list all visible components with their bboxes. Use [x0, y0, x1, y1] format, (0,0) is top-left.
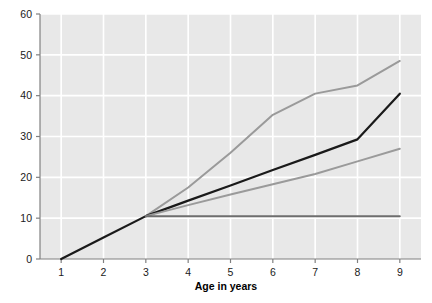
y-tick-label: 10 — [20, 212, 32, 224]
y-axis-tick-labels: 0102030405060 — [20, 8, 32, 265]
y-tick-label: 20 — [20, 171, 32, 183]
x-tick-label: 9 — [397, 266, 403, 278]
y-tick-label: 50 — [20, 49, 32, 61]
x-tick-label: 8 — [355, 266, 361, 278]
x-tick-label: 5 — [228, 266, 234, 278]
x-tick-label: 4 — [185, 266, 191, 278]
x-axis-tick-labels: 123456789 — [58, 266, 403, 278]
x-tick-label: 6 — [270, 266, 276, 278]
line-chart: 0102030405060 123456789 Age in years — [0, 0, 432, 303]
x-tick-label: 3 — [143, 266, 149, 278]
y-tick-label: 60 — [20, 8, 32, 20]
x-tick-label: 7 — [312, 266, 318, 278]
y-tick-label: 30 — [20, 130, 32, 142]
y-tick-label: 40 — [20, 89, 32, 101]
x-axis-title: Age in years — [195, 280, 258, 292]
chart-figure: 0102030405060 123456789 Age in years — [0, 0, 432, 303]
y-tick-label: 0 — [26, 253, 32, 265]
x-tick-label: 1 — [58, 266, 64, 278]
x-tick-label: 2 — [101, 266, 107, 278]
